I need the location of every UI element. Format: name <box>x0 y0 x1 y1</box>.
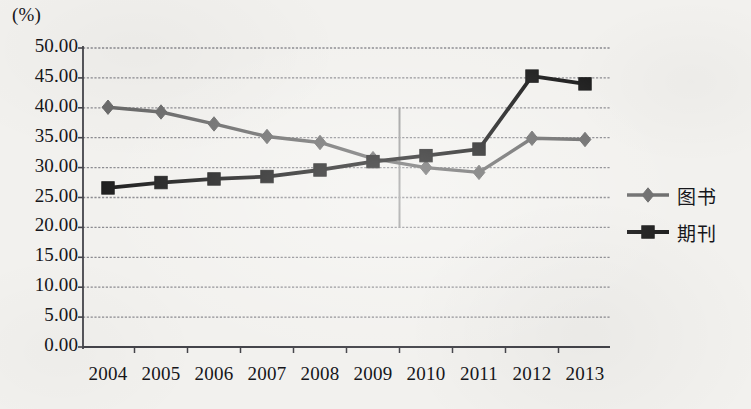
grid-lines <box>83 48 610 347</box>
x-tick-label: 2009 <box>344 363 402 385</box>
data-point-marker <box>579 132 591 146</box>
data-point-marker <box>526 70 538 82</box>
data-point-marker <box>208 173 220 185</box>
legend-marker <box>642 226 654 238</box>
x-tick-label: 2011 <box>450 363 508 385</box>
x-tick-label: 2006 <box>185 363 243 385</box>
axes <box>78 46 610 353</box>
x-tick-label: 2010 <box>397 363 455 385</box>
series-line <box>108 107 585 172</box>
data-point-marker <box>102 182 114 194</box>
x-tick-label: 2008 <box>291 363 349 385</box>
data-point-marker <box>420 160 432 174</box>
legend-marker <box>642 188 654 202</box>
x-tick-label: 2012 <box>503 363 561 385</box>
chart-container: (%) 50.0045.0040.0035.0030.0025.0020.001… <box>0 0 751 409</box>
data-point-marker <box>261 170 273 182</box>
legend-markers <box>625 181 751 271</box>
data-point-marker <box>155 176 167 188</box>
x-tick-label: 2007 <box>238 363 296 385</box>
data-point-marker <box>367 155 379 167</box>
x-tick-label: 2004 <box>79 363 137 385</box>
x-tick-label: 2005 <box>132 363 190 385</box>
data-point-marker <box>473 143 485 155</box>
x-tick-label: 2013 <box>556 363 614 385</box>
series-2 <box>102 70 591 194</box>
data-point-marker <box>155 105 167 119</box>
data-point-marker <box>102 100 114 114</box>
data-point-marker <box>579 78 591 90</box>
data-point-marker <box>526 131 538 145</box>
data-point-marker <box>208 117 220 131</box>
data-point-marker <box>314 164 326 176</box>
series-line <box>108 76 585 188</box>
data-point-marker <box>261 129 273 143</box>
data-point-marker <box>420 149 432 161</box>
